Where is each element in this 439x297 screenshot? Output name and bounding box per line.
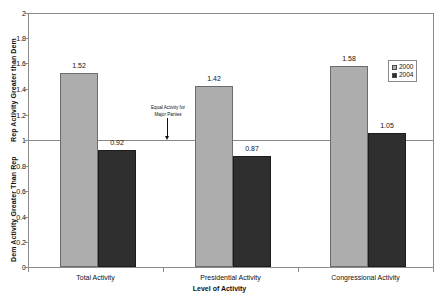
legend-swatch-icon-2000 (392, 65, 397, 70)
bar-2004-total-activity[interactable] (98, 150, 136, 267)
y-axis-label-upper: Rep Activity Greater than Dem (10, 38, 17, 142)
bar-2000-congressional-activity[interactable] (330, 66, 368, 267)
y-tick-label: 2 (2, 10, 26, 17)
bar-2004-presidential-activity[interactable] (233, 156, 271, 267)
legend-label-2000: 2000 (399, 63, 413, 71)
bar-value-label: 0.92 (93, 139, 141, 146)
y-axis-label-lower: Dem Activity Greater Than Rep (10, 156, 17, 262)
plot-area: 1.52 0.92 1.42 0.87 1.58 1.05 (28, 13, 434, 268)
legend-label-2004: 2004 (399, 71, 413, 79)
annotation-line-1: Equal Activity for (137, 105, 199, 112)
bar-value-label: 0.87 (228, 145, 276, 152)
annotation-arrow-icon (167, 118, 168, 136)
x-tick-mark (433, 268, 434, 272)
x-category-label-congressional: Congressional Activity (305, 274, 426, 281)
x-axis-title: Level of Activity (0, 285, 439, 292)
legend-item-2000[interactable]: 2000 (392, 63, 413, 71)
bar-2000-presidential-activity[interactable] (195, 86, 233, 267)
bar-value-label: 1.52 (55, 62, 103, 69)
legend-swatch-icon-2004 (392, 73, 397, 78)
bar-value-label: 1.05 (363, 122, 411, 129)
annotation-equal-activity: Equal Activity for Major Parties (137, 105, 199, 119)
bar-2004-congressional-activity[interactable] (368, 133, 406, 267)
y-tick-label: 0 (2, 264, 26, 271)
bar-2000-total-activity[interactable] (60, 73, 98, 267)
bar-value-label: 1.42 (190, 75, 238, 82)
x-category-label-presidential: Presidential Activity (170, 274, 291, 281)
legend: 2000 2004 (388, 60, 417, 82)
legend-item-2004[interactable]: 2004 (392, 71, 413, 79)
x-category-label-total: Total Activity (35, 274, 156, 281)
x-tick-mark (298, 268, 299, 272)
bar-value-label: 1.58 (325, 55, 373, 62)
x-tick-mark (28, 268, 29, 272)
annotation-line-2: Major Parties (137, 112, 199, 119)
x-tick-mark (163, 268, 164, 272)
bar-chart: 2 1.8 1.6 1.4 1.2 1 0.8 0.6 0.4 0.2 0 Re… (0, 0, 439, 297)
